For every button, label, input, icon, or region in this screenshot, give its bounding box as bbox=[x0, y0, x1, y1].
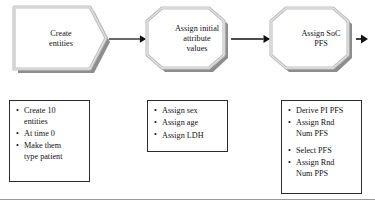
process-node-label: Create entities bbox=[14, 8, 124, 70]
detail-list-item: •Select PFS bbox=[288, 146, 356, 157]
flow-arrow-2 bbox=[231, 31, 271, 47]
flow-arrow-3-offscreen bbox=[356, 31, 370, 47]
detail-list-item-label: Assign sex bbox=[162, 106, 222, 117]
detail-list-item: •At time 0 bbox=[16, 129, 84, 140]
detail-list-item: •Create 10 entities bbox=[16, 106, 84, 128]
flow-arrow-1 bbox=[109, 31, 147, 47]
bullet-icon: • bbox=[288, 118, 291, 129]
detail-list-item-label: Select PFS bbox=[296, 146, 356, 157]
detail-list: •Create 10 entities•At time 0•Make them … bbox=[16, 106, 84, 163]
detail-list-item-label: At time 0 bbox=[24, 129, 84, 140]
detail-list-item-label: Make them type patient bbox=[24, 141, 84, 163]
detail-box-assign-initial-attribute-values: •Assign sex•Assign age•Assign LDH bbox=[147, 100, 228, 152]
detail-list-item: •Assign Rnd Num PFS bbox=[288, 118, 356, 140]
bullet-icon: • bbox=[154, 130, 157, 141]
detail-list-item: •Derive PI PFS bbox=[288, 106, 356, 117]
detail-list-item: •Assign sex bbox=[154, 106, 222, 117]
detail-list-item: •Assign age bbox=[154, 118, 222, 129]
bullet-icon: • bbox=[154, 118, 157, 129]
process-node-create-entities[interactable]: Create entities bbox=[14, 8, 108, 70]
detail-list-item-label: Create 10 entities bbox=[24, 106, 84, 128]
detail-list-item-label: Assign Rnd Num PFS bbox=[296, 118, 356, 140]
detail-list-item-label: Assign LDH bbox=[162, 131, 222, 142]
bullet-icon: • bbox=[288, 146, 291, 157]
process-node-assign-soc-pfs[interactable]: Assign SoC PFS bbox=[272, 8, 354, 70]
process-node-assign-initial-attribute-values[interactable]: Assign initial attribute values bbox=[148, 8, 230, 70]
detail-list-item-label: Assign age bbox=[162, 118, 222, 129]
bullet-icon: • bbox=[16, 106, 19, 117]
bullet-icon: • bbox=[16, 129, 19, 140]
detail-list-item: •Assign Rnd Num PPS bbox=[288, 158, 356, 180]
detail-box-create-entities: •Create 10 entities•At time 0•Make them … bbox=[9, 100, 90, 182]
bullet-icon: • bbox=[154, 106, 157, 117]
detail-box-assign-soc-pfs: •Derive PI PFS•Assign Rnd Num PFS•Select… bbox=[281, 100, 362, 194]
footer-divider bbox=[0, 199, 375, 200]
detail-list: •Derive PI PFS•Assign Rnd Num PFS•Select… bbox=[288, 106, 356, 180]
detail-list-item: •Make them type patient bbox=[16, 141, 84, 163]
detail-list: •Assign sex•Assign age•Assign LDH bbox=[154, 106, 222, 141]
detail-list-item-label: Derive PI PFS bbox=[296, 106, 356, 117]
detail-list-item: •Assign LDH bbox=[154, 131, 222, 142]
bullet-icon: • bbox=[288, 106, 291, 117]
bullet-icon: • bbox=[16, 141, 19, 152]
bullet-icon: • bbox=[288, 158, 291, 169]
diagram-canvas: Create entities Assign initial attribute… bbox=[0, 0, 375, 207]
detail-list-item-label: Assign Rnd Num PPS bbox=[296, 158, 356, 180]
